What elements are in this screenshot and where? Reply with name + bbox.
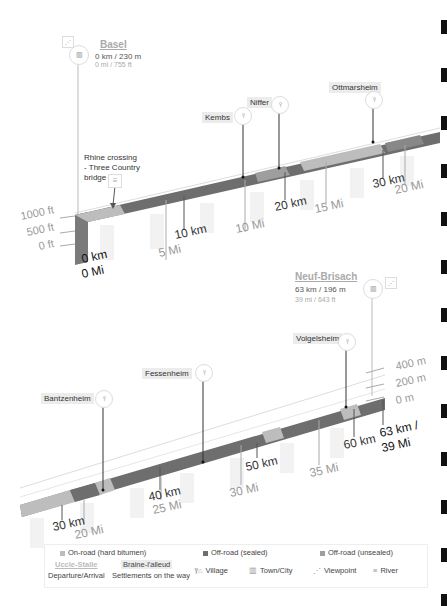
village-icon: ⫯ — [365, 91, 383, 109]
cropped-edge-mark — [441, 594, 447, 606]
village-icon: ⫯ — [338, 333, 356, 351]
river-icon: ≡ — [108, 174, 122, 188]
cropped-edge-mark — [441, 68, 447, 82]
village-icon: ⫯ — [195, 364, 213, 382]
legend-viewpoint: ⋰Viewpoint — [313, 566, 356, 575]
cropped-edge-mark — [441, 452, 447, 466]
legend-village: ⫯⌂Village — [195, 566, 228, 576]
legend-departure-label: Departure/Arrival — [48, 571, 105, 580]
end-distance-elevation-imperial: 39 mi / 643 ft — [295, 296, 335, 303]
settlement-label-fessenheim: Fessenheim — [142, 368, 192, 379]
cropped-edge-mark — [441, 356, 447, 370]
legend-sealed: Off-road (sealed) — [203, 548, 268, 557]
cropped-edge-mark — [441, 548, 447, 562]
start-name: Basel — [100, 39, 127, 50]
town-city-icon: ▥ — [69, 45, 89, 65]
settlement-label-niffer: Niffer — [247, 97, 272, 108]
legend-town-city: ▥Town/City — [249, 566, 293, 575]
cropped-edge-mark — [441, 164, 447, 178]
village-icon: ⫯⌂ — [195, 566, 203, 575]
cropped-edge-mark — [441, 260, 447, 274]
cropped-edge-mark — [441, 500, 447, 514]
viewpoint-icon: ⋰ — [313, 566, 321, 575]
river-icon: ≡ — [373, 566, 377, 575]
legend-bitumen: On-road (hard bitumen) — [60, 548, 146, 557]
cropped-edge-mark — [441, 308, 447, 322]
legend-unsealed: Off-road (unsealed) — [320, 548, 393, 557]
village-icon: ⫯ — [234, 107, 252, 125]
legend-river: ≡River — [373, 566, 398, 575]
legend-settlement-example: Braine-l'alleud — [121, 560, 172, 569]
cropped-edge-mark — [441, 404, 447, 418]
start-distance-elevation-imperial: 0 mi / 755 ft — [95, 61, 132, 68]
settlement-label-volgelsheim: Volgelsheim — [293, 333, 342, 344]
legend: On-road (hard bitumen) Off-road (sealed)… — [44, 544, 428, 588]
village-icon: ⫯ — [95, 390, 113, 408]
legend-settlement-label: Settlements on the way — [112, 571, 190, 580]
viewpoint-icon: ⋰ — [385, 277, 397, 289]
cropped-edge-mark — [441, 212, 447, 226]
town-city-icon: ▥ — [363, 279, 383, 299]
settlement-label-bantzenheim: Bantzenheim — [41, 393, 94, 404]
cropped-edge-mark — [441, 116, 447, 130]
town-city-icon: ▥ — [249, 566, 257, 575]
cropped-edge-mark — [441, 20, 447, 34]
start-distance-elevation-metric: 0 km / 230 m — [95, 52, 141, 61]
village-icon: ⫯ — [271, 96, 289, 114]
end-name: Neuf-Brisach — [295, 271, 357, 282]
end-distance-elevation-metric: 63 km / 196 m — [295, 285, 346, 294]
legend-departure-example: Uccle-Stalle — [55, 560, 98, 569]
settlement-label-kembs: Kembs — [202, 112, 233, 123]
